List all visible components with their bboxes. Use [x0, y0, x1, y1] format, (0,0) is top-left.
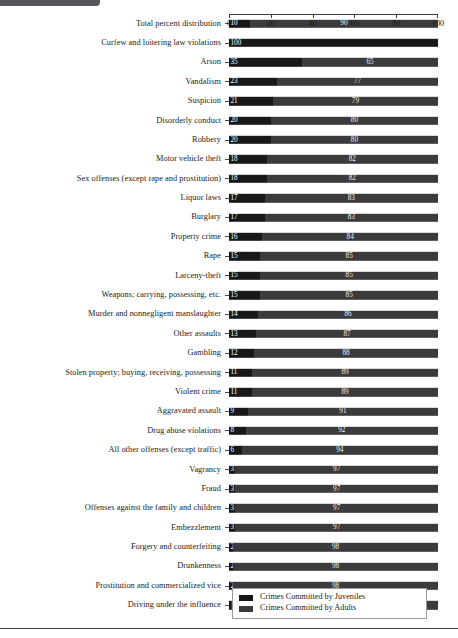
- bar-value-adult: 97: [333, 466, 340, 473]
- stacked-bar: 1783: [229, 213, 438, 221]
- legend-label: Crimes Committed by Adults: [260, 604, 356, 612]
- stacked-bar: 1486: [229, 310, 438, 318]
- bar-segment-juvenile: 17: [229, 213, 265, 221]
- bar-area: 2179: [229, 92, 438, 111]
- bar-segment-adult: 89: [252, 369, 438, 377]
- bar-area: 1189: [229, 363, 438, 382]
- legend-swatch-icon: [239, 606, 253, 612]
- chart-row: Suspicion2179: [0, 92, 458, 111]
- bar-segment-juvenile: 18: [229, 155, 267, 163]
- stacked-bar: 1189: [229, 388, 438, 396]
- stacked-bar: 1882: [229, 155, 438, 163]
- bar-area: 397: [229, 460, 438, 479]
- chart-row: Embezzlement397: [0, 518, 458, 537]
- bar-area: 1387: [229, 324, 438, 343]
- bar-segment-adult: 85: [260, 252, 438, 260]
- x-axis-tick-label: 20: [267, 20, 275, 28]
- bar-value-juvenile: 20: [231, 136, 238, 143]
- row-label: Total percent distribution: [0, 20, 225, 28]
- x-axis-tick: [437, 14, 438, 18]
- row-label: Stolen property; buying, receiving, poss…: [0, 369, 225, 377]
- bar-segment-adult: 82: [267, 175, 438, 183]
- bar-area: 1783: [229, 208, 438, 227]
- stacked-bar: 3565: [229, 58, 438, 66]
- legend-item: Crimes Committed by Juveniles: [239, 592, 420, 603]
- x-axis-tick-label: 40: [308, 20, 316, 28]
- bar-value-juvenile: 9: [231, 408, 235, 415]
- row-label: Other assaults: [0, 330, 225, 338]
- bar-value-juvenile: 3: [231, 524, 235, 531]
- bar-segment-juvenile: 12: [229, 349, 254, 357]
- chart-row: Offenses against the family and children…: [0, 499, 458, 518]
- bar-value-adult: 85: [346, 272, 353, 279]
- bar-area: 892: [229, 421, 438, 440]
- bar-area: 1684: [229, 227, 438, 246]
- row-label: Vagrancy: [0, 466, 225, 474]
- row-label: Robbery: [0, 136, 225, 144]
- row-label: Violent crime: [0, 388, 225, 396]
- row-label: Burglary: [0, 213, 225, 221]
- bar-area: 1585: [229, 266, 438, 285]
- bar-value-adult: 83: [348, 214, 355, 221]
- bar-value-adult: 84: [347, 233, 354, 240]
- bar-segment-adult: 98: [233, 543, 438, 551]
- stacked-bar: 1585: [229, 291, 438, 299]
- bar-value-juvenile: 8: [231, 427, 235, 434]
- bar-area: 1288: [229, 344, 438, 363]
- chart-row: Rape1585: [0, 247, 458, 266]
- bar-value-adult: 82: [349, 156, 356, 163]
- chart-row: Vagrancy397: [0, 460, 458, 479]
- bottom-divider: [0, 628, 458, 629]
- bar-value-adult: 98: [332, 563, 339, 570]
- row-label: Curfew and loitering law violations: [0, 39, 225, 47]
- chart-row: Burglary1783: [0, 208, 458, 227]
- bar-value-juvenile: 3: [231, 505, 235, 512]
- stacked-bar: 397: [229, 504, 438, 512]
- bar-area: 1585: [229, 247, 438, 266]
- row-label: Rape: [0, 252, 225, 260]
- bar-segment-adult: 92: [246, 427, 438, 435]
- bar-value-adult: 98: [332, 544, 339, 551]
- bar-segment-adult: 97: [235, 504, 438, 512]
- row-label: Driving under the influence: [0, 601, 225, 609]
- chart-row: Murder and nonnegligent manslaughter1486: [0, 305, 458, 324]
- bar-value-adult: 80: [351, 117, 358, 124]
- row-label: Gambling: [0, 349, 225, 357]
- legend-swatch-icon: [239, 595, 253, 601]
- row-label: Arson: [0, 58, 225, 66]
- x-axis-tick: [354, 14, 355, 18]
- row-label: Drug abuse violations: [0, 427, 225, 435]
- bar-value-adult: 85: [346, 292, 353, 299]
- bar-value-adult: 91: [339, 408, 346, 415]
- chart-row: Larceny-theft1585: [0, 266, 458, 285]
- row-label: Property crime: [0, 233, 225, 241]
- chart-row: Arson3565: [0, 53, 458, 72]
- bar-segment-juvenile: 8: [229, 427, 246, 435]
- stacked-bar-chart: Total percent distribution1090Curfew and…: [0, 14, 458, 574]
- bar-segment-juvenile: 6: [229, 446, 242, 454]
- bar-value-juvenile: 6: [231, 447, 235, 454]
- stacked-bar: 1585: [229, 272, 438, 280]
- bar-segment-adult: 84: [262, 233, 438, 241]
- bar-segment-adult: 91: [248, 407, 438, 415]
- bar-segment-adult: 87: [256, 330, 438, 338]
- stacked-bar: 1189: [229, 369, 438, 377]
- bar-value-juvenile: 17: [231, 214, 238, 221]
- bar-value-juvenile: 18: [231, 175, 238, 182]
- legend-item: Crimes Committed by Adults: [239, 603, 420, 614]
- bar-segment-adult: 85: [260, 291, 438, 299]
- stacked-bar: 298: [229, 562, 438, 570]
- row-label: Offenses against the family and children: [0, 504, 225, 512]
- bar-segment-adult: 80: [271, 116, 438, 124]
- bar-area: 694: [229, 441, 438, 460]
- bar-value-juvenile: 18: [231, 156, 238, 163]
- bar-segment-adult: 98: [233, 562, 438, 570]
- stacked-bar: 397: [229, 524, 438, 532]
- bar-value-juvenile: 3: [231, 485, 235, 492]
- bar-area: 397: [229, 518, 438, 537]
- row-label: Forgery and counterfeiting: [0, 543, 225, 551]
- bar-segment-adult: 65: [302, 58, 438, 66]
- bar-value-juvenile: 21: [231, 98, 238, 105]
- bar-value-juvenile: 17: [231, 195, 238, 202]
- row-label: Weapons; carrying, possessing, etc.: [0, 291, 225, 299]
